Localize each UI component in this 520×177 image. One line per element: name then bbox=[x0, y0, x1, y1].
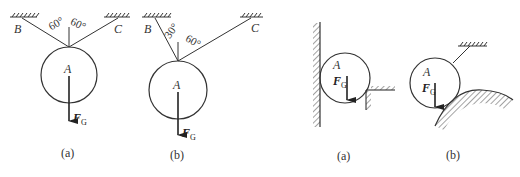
step-support bbox=[366, 86, 395, 110]
ceiling-support bbox=[458, 42, 487, 46]
ceiling-support-c bbox=[104, 13, 130, 17]
force-label: F bbox=[421, 81, 430, 95]
ceiling-support-b bbox=[142, 13, 171, 17]
body-label-a: A bbox=[332, 58, 341, 72]
diagram-canvas: B C 60° 60° A F G (a) B C 30° 60° A F G … bbox=[0, 0, 520, 177]
force-subscript: G bbox=[190, 133, 196, 142]
force-subscript: G bbox=[81, 118, 87, 127]
force-label: F bbox=[181, 126, 190, 140]
figure-right-b: A F G (b) bbox=[410, 42, 513, 162]
wall-support bbox=[313, 22, 320, 127]
force-subscript: G bbox=[341, 81, 347, 90]
force-label: F bbox=[332, 74, 341, 88]
ball-a bbox=[320, 53, 370, 103]
label-c: C bbox=[114, 22, 123, 36]
body-label-a: A bbox=[63, 62, 72, 76]
label-c: C bbox=[251, 21, 260, 35]
angle-right: 60° bbox=[184, 32, 203, 50]
body-label-a: A bbox=[172, 78, 181, 92]
force-subscript: G bbox=[430, 88, 436, 97]
force-label: F bbox=[72, 111, 81, 125]
ceiling-support-c bbox=[240, 13, 263, 17]
caption-a: (a) bbox=[61, 146, 74, 160]
ceiling-support-b bbox=[10, 13, 39, 17]
label-b: B bbox=[14, 22, 22, 36]
body-label-a: A bbox=[422, 65, 431, 79]
angle-right: 60° bbox=[69, 15, 88, 32]
rope bbox=[453, 46, 470, 63]
curved-surface-support bbox=[435, 90, 513, 130]
caption-b: (b) bbox=[170, 148, 184, 162]
caption-b: (b) bbox=[446, 148, 460, 162]
label-b: B bbox=[144, 22, 152, 36]
caption-a: (a) bbox=[337, 149, 350, 163]
angle-left: 30° bbox=[162, 21, 181, 41]
figure-right-a: A F G (a) bbox=[313, 22, 395, 163]
angle-left: 60° bbox=[46, 14, 65, 32]
figure-left-a: B C 60° 60° A F G (a) bbox=[10, 13, 130, 160]
figure-left-b: B C 30° 60° A F G (b) bbox=[142, 13, 263, 162]
